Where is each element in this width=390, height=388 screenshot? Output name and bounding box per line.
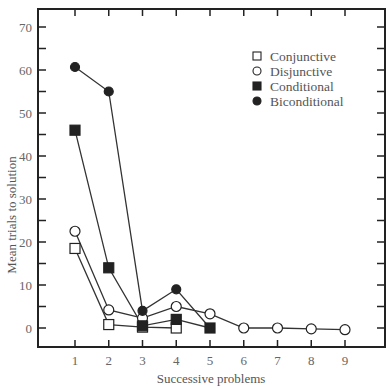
legend-item-biconditional: Biconditional <box>253 94 344 109</box>
open-circle-icon <box>253 67 261 75</box>
x-tick-label: 7 <box>274 353 281 368</box>
markers-disjunctive <box>70 226 350 334</box>
series-conjunctive <box>75 248 176 328</box>
filled-circle-marker <box>71 62 80 71</box>
series-biconditional <box>75 67 210 328</box>
filled-square-icon <box>253 82 261 90</box>
open-circle-marker <box>104 305 114 315</box>
legend-item-conditional: Conditional <box>253 79 334 94</box>
open-square-marker <box>104 320 114 330</box>
legend-label: Conditional <box>270 79 334 94</box>
filled-square-marker <box>171 314 181 324</box>
y-tick-label: 30 <box>19 192 32 207</box>
markers-conditional <box>70 125 215 333</box>
open-circle-marker <box>171 302 181 312</box>
y-tick-label: 60 <box>19 63 32 78</box>
open-circle-marker <box>340 325 350 335</box>
open-circle-marker <box>306 324 316 334</box>
open-square-icon <box>253 52 261 60</box>
series-line <box>75 130 210 328</box>
open-square-marker <box>70 243 80 253</box>
filled-circle-marker <box>104 87 113 96</box>
filled-circle-icon <box>253 97 261 105</box>
x-tick-label: 4 <box>173 353 180 368</box>
filled-circle-marker <box>138 306 147 315</box>
filled-square-marker <box>104 263 114 273</box>
filled-circle-marker <box>172 285 181 294</box>
x-tick-label: 8 <box>308 353 315 368</box>
x-tick-label: 2 <box>106 353 113 368</box>
y-tick-label: 70 <box>19 20 32 35</box>
y-tick-label: 20 <box>19 235 32 250</box>
filled-square-marker <box>138 321 148 331</box>
x-axis-title: Successive problems <box>157 371 266 386</box>
series-line <box>75 67 210 328</box>
legend-item-conjunctive: Conjunctive <box>253 49 336 64</box>
x-tick-label: 3 <box>139 353 146 368</box>
series-conditional <box>75 130 210 328</box>
y-tick-label: 40 <box>19 149 32 164</box>
open-circle-marker <box>239 323 249 333</box>
y-tick-label: 10 <box>19 278 32 293</box>
legend-label: Conjunctive <box>270 49 336 64</box>
series-line <box>75 248 176 328</box>
x-tick-label: 9 <box>342 353 349 368</box>
x-tick-label: 6 <box>241 353 248 368</box>
filled-circle-marker <box>206 324 215 333</box>
legend-label: Biconditional <box>270 94 344 109</box>
x-tick-label: 5 <box>207 353 214 368</box>
open-circle-marker <box>205 309 215 319</box>
line-chart: 010203040506070 123456789 Successive pro… <box>0 0 390 388</box>
y-axis-title: Mean trials to solution <box>4 156 19 274</box>
filled-square-marker <box>70 125 80 135</box>
legend: ConjunctiveDisjunctiveConditionalBicondi… <box>253 49 344 109</box>
open-circle-marker <box>273 323 283 333</box>
legend-item-disjunctive: Disjunctive <box>253 64 332 79</box>
y-tick-label: 50 <box>19 106 32 121</box>
x-tick-label: 1 <box>72 353 79 368</box>
y-tick-label: 0 <box>26 321 33 336</box>
legend-label: Disjunctive <box>270 64 332 79</box>
open-circle-marker <box>70 226 80 236</box>
